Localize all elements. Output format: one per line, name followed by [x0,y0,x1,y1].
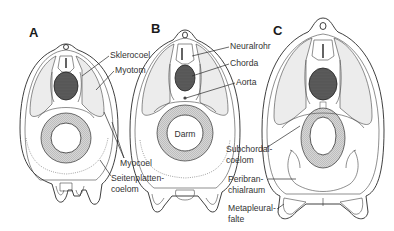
chorda [175,65,195,91]
label-sklerocoel: Sklerocoel [110,50,150,60]
panel-letter-b: B [151,21,160,36]
label-peribranchial-2: chialraum [228,185,265,195]
panel-a: A [20,25,118,204]
panel-letter-a: A [29,25,39,40]
metapleural-fold-right [340,198,363,214]
myotom [274,38,312,125]
metapleural-fold-left [283,198,306,214]
panel-letter-c: C [273,23,283,38]
neural-tube [176,44,194,64]
panel-c: C [262,18,384,219]
amphioxus-cross-section-diagram: A B Darm [0,0,394,231]
label-aorta: Aorta [236,77,257,87]
label-myocoel: Myocoel [120,158,152,168]
chorda [54,72,78,100]
myotom [30,56,56,117]
chorda [309,68,337,100]
label-seitenplatten-1: Seitenplatten- [111,173,164,183]
label-myotom: Myotom [115,65,146,75]
label-peribranchial-1: Peribran- [228,174,263,184]
label-subchordal-1: Subchordal- [226,144,272,154]
label-metapleural-1: Metapleural- [228,203,276,213]
label-darm: Darm [174,129,195,139]
label-chorda: Chorda [230,58,258,68]
label-neuralrohr: Neuralrohr [230,41,271,51]
label-seitenplatten-2: coelom [111,184,139,194]
label-subchordal-2: coelom [226,155,254,165]
label-metapleural-2: falte [228,214,244,224]
